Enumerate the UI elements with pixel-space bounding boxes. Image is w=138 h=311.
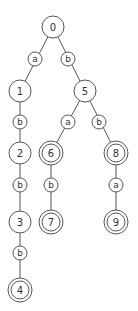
state-label: 2 xyxy=(17,148,23,159)
state-label: 6 xyxy=(48,148,54,159)
edge-label-5-8: b xyxy=(92,115,106,129)
edge-symbol: a xyxy=(113,180,119,190)
state-label: 4 xyxy=(17,285,23,296)
state-8: 8 xyxy=(104,141,128,165)
state-0: 0 xyxy=(42,16,64,38)
edge-symbol: b xyxy=(17,117,23,127)
edge-symbol: b xyxy=(65,54,71,64)
state-1: 1 xyxy=(9,80,31,102)
state-3: 3 xyxy=(9,211,31,233)
state-4: 4 xyxy=(8,278,32,302)
edge-symbol: b xyxy=(17,180,23,190)
state-label: 1 xyxy=(17,86,23,97)
edge-symbol: b xyxy=(17,248,23,258)
edge-label-2-3: b xyxy=(13,178,27,192)
state-label: 5 xyxy=(82,86,88,97)
edge-label-1-2: b xyxy=(13,115,27,129)
state-6: 6 xyxy=(39,141,63,165)
edge-label-0-5: b xyxy=(61,52,75,66)
state-5: 5 xyxy=(74,80,96,102)
state-label: 7 xyxy=(48,217,54,228)
state-9: 9 xyxy=(104,210,128,234)
state-label: 0 xyxy=(50,22,56,33)
state-label: 8 xyxy=(113,148,119,159)
state-7: 7 xyxy=(39,210,63,234)
edge-label-6-7: b xyxy=(44,178,58,192)
edge-symbol: b xyxy=(48,180,54,190)
edge-symbol: b xyxy=(96,117,102,127)
edge-label-3-4: b xyxy=(13,246,27,260)
edge-label-5-6: a xyxy=(61,115,75,129)
trie-diagram: abbbbabba 0123456789 xyxy=(0,0,138,311)
edge-symbol: a xyxy=(65,117,71,127)
edge-label-0-1: a xyxy=(28,52,42,66)
edge-symbol: a xyxy=(32,54,38,64)
edge-label-8-9: a xyxy=(109,178,123,192)
state-label: 9 xyxy=(113,217,119,228)
state-2: 2 xyxy=(9,142,31,164)
state-label: 3 xyxy=(17,217,23,228)
